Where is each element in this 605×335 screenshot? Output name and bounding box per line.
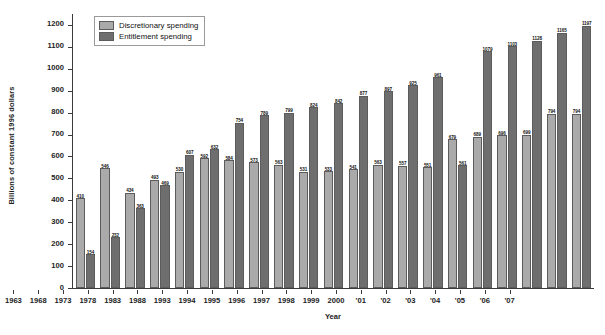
plot-area: 0100200300400500600700800900100011001200… [72, 14, 594, 289]
bar-entitlement: 897 [384, 91, 393, 288]
bar-discretionary: 533 [324, 171, 333, 288]
y-axis-tick-label: 400 [51, 195, 64, 204]
x-axis-tick-mark [262, 290, 263, 294]
x-axis-tick-mark [361, 290, 362, 294]
bar-value-label: 551 [424, 163, 431, 168]
x-axis-tick-mark [410, 290, 411, 294]
bar-value-label: 925 [409, 81, 416, 86]
year-group: 7941165 [547, 14, 567, 288]
bar-value-label: 232 [112, 233, 119, 238]
bar-value-label: 799 [285, 108, 292, 113]
bar-discretionary: 557 [398, 166, 407, 288]
y-axis-tick-mark [68, 156, 72, 157]
year-group: 493469 [150, 14, 170, 288]
bar-value-label: 541 [349, 165, 356, 170]
y-axis-tick: 1200 [38, 25, 72, 26]
bar-value-label: 557 [399, 161, 406, 166]
bar-entitlement: 1128 [532, 41, 541, 288]
y-axis-tick: 900 [38, 91, 72, 92]
bar-value-label: 794 [548, 109, 555, 114]
bar-value-label: 699 [523, 130, 530, 135]
y-axis-tick-mark [68, 178, 72, 179]
year-group: 410154 [76, 14, 96, 288]
bar-entitlement: 925 [408, 85, 417, 288]
x-axis-tick-mark [435, 290, 436, 294]
y-axis-tick: 200 [38, 244, 72, 245]
bar-discretionary: 563 [274, 165, 283, 288]
year-group: 7941197 [572, 14, 592, 288]
y-axis-tick: 300 [38, 222, 72, 223]
year-group: 541877 [349, 14, 369, 288]
bar-value-label: 563 [374, 160, 381, 165]
bars-layer: 4101545462324343634934695306075926325847… [73, 14, 594, 288]
x-axis-tick-mark [311, 290, 312, 294]
y-axis-tick-mark [68, 113, 72, 114]
year-group: 434363 [125, 14, 145, 288]
bar-value-label: 469 [161, 181, 168, 186]
x-axis-tick-mark [510, 290, 511, 294]
legend-item: Entitlement spending [99, 31, 198, 42]
bar-value-label: 563 [275, 160, 282, 165]
y-axis-title: Billions of constant 1996 dollars [2, 0, 20, 290]
x-axis-tick-label: 1963 [5, 296, 22, 305]
year-group: 584754 [224, 14, 244, 288]
x-axis-tick-label: '02 [380, 296, 390, 305]
spending-bar-chart: Billions of constant 1996 dollars 010020… [0, 0, 605, 335]
y-axis-title-label: Billions of constant 1996 dollars [7, 86, 16, 204]
bar-discretionary: 531 [299, 172, 308, 288]
bar-discretionary: 592 [200, 158, 209, 288]
year-group: 573789 [249, 14, 269, 288]
x-axis-tick-mark [336, 290, 337, 294]
legend-label: Entitlement spending [119, 32, 192, 41]
x-axis-tick-label: 1998 [278, 296, 295, 305]
year-group: 6991128 [522, 14, 542, 288]
x-axis-tick-label: 2000 [327, 296, 344, 305]
bar-entitlement: 842 [334, 103, 343, 288]
bar-value-label: 696 [498, 131, 505, 136]
y-axis-tick-label: 800 [51, 107, 64, 116]
year-group: 530607 [175, 14, 195, 288]
y-axis-tick: 1000 [38, 69, 72, 70]
x-axis-line [72, 288, 594, 289]
y-axis-tick-mark [68, 200, 72, 201]
bar-discretionary: 434 [125, 193, 134, 288]
year-group: 557925 [398, 14, 418, 288]
bar-value-label: 493 [151, 175, 158, 180]
x-axis-tick-mark [63, 290, 64, 294]
x-axis-tick-label: '03 [405, 296, 415, 305]
year-group: 679561 [448, 14, 468, 288]
year-group: 6891079 [473, 14, 493, 288]
x-axis-tick-label: 1993 [154, 296, 171, 305]
x-axis-tick-mark [137, 290, 138, 294]
year-group: 592632 [200, 14, 220, 288]
year-group: 6961103 [497, 14, 517, 288]
legend-swatch-discretionary [99, 21, 114, 30]
bar-discretionary: 573 [249, 162, 258, 288]
bar-value-label: 1079 [483, 47, 493, 52]
bar-entitlement: 1079 [483, 51, 492, 288]
bar-discretionary: 689 [473, 137, 482, 288]
year-group: 546232 [100, 14, 120, 288]
y-axis-tick-mark [68, 288, 72, 289]
bar-discretionary: 410 [76, 198, 85, 288]
x-axis-title: Year [72, 312, 594, 321]
bar-entitlement: 561 [458, 165, 467, 288]
bar-value-label: 410 [77, 194, 84, 199]
x-axis-tick-mark [13, 290, 14, 294]
y-axis-tick-label: 1000 [47, 63, 64, 72]
bar-discretionary: 699 [522, 135, 531, 288]
legend-item: Discretionary spending [99, 20, 198, 31]
bar-discretionary: 563 [373, 165, 382, 288]
y-axis-tick-label: 300 [51, 217, 64, 226]
bar-entitlement: 961 [433, 77, 442, 288]
x-axis-tick-mark [286, 290, 287, 294]
bar-discretionary: 530 [175, 172, 184, 288]
bar-entitlement: 1165 [557, 33, 566, 288]
bar-entitlement: 1103 [508, 46, 517, 288]
y-axis-tick: 600 [38, 156, 72, 157]
bar-discretionary: 551 [423, 167, 432, 288]
bar-value-label: 961 [434, 73, 441, 78]
x-axis-tick-label: 1968 [30, 296, 47, 305]
bar-discretionary: 493 [150, 180, 159, 288]
bar-value-label: 546 [101, 164, 108, 169]
